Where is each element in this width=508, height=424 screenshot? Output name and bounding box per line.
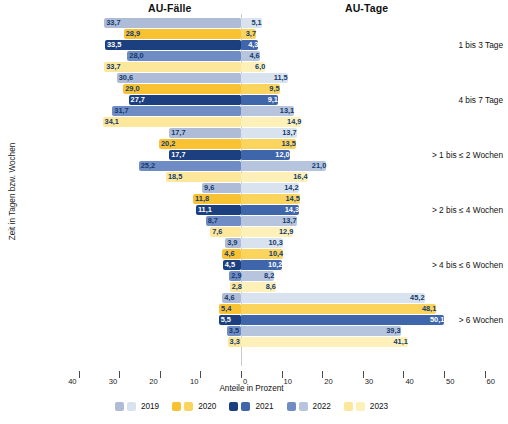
bar-group: 17,713,720,213,517,712,025,221,018,516,4	[0, 128, 503, 183]
bar-value-au-tage: 41,1	[241, 337, 410, 347]
bar-value-au-faelle: 17,7	[169, 150, 185, 160]
legend-swatch-au-tage	[299, 402, 308, 411]
axis-tick	[322, 371, 323, 378]
bar-value-au-faelle: 31,7	[112, 106, 128, 116]
bar-row: 27,79,1	[0, 95, 503, 105]
bar-row: 3,539,3	[0, 326, 503, 336]
bar-row: 18,516,4	[0, 172, 503, 182]
bar-value-au-faelle: 5,4	[219, 304, 231, 314]
bar-au-faelle	[103, 117, 241, 127]
bar-row: 3,910,3	[0, 238, 503, 248]
bar-row: 9,614,2	[0, 183, 503, 193]
bar-row: 5,550,1	[0, 315, 503, 325]
bar-value-au-faelle: 2,9	[229, 271, 241, 281]
bar-row: 28,93,7	[0, 29, 503, 39]
bar-au-faelle	[123, 84, 241, 94]
bar-group: 30,611,529,09,527,79,131,713,134,114,9	[0, 73, 503, 128]
column-header-au-tage: AU-Tage	[345, 2, 388, 14]
bar-row: 3,341,1	[0, 337, 503, 347]
legend-item-2021[interactable]: 2021	[229, 402, 273, 411]
axis-tick	[444, 371, 445, 378]
bar-value-au-faelle: 11,1	[196, 205, 212, 215]
bar-value-au-tage: 10,4	[241, 249, 285, 259]
bar-value-au-tage: 50,1	[241, 315, 446, 325]
plot-area: 33,75,128,93,733,54,328,04,633,76,030,61…	[0, 14, 503, 366]
bar-value-au-faelle: 33,5	[105, 40, 121, 50]
bar-row: 8,713,7	[0, 216, 503, 226]
bar-value-au-tage: 13,1	[241, 106, 296, 116]
legend: 20192020202120222023	[0, 402, 503, 411]
bar-row: 2,98,2	[0, 271, 503, 281]
bar-row: 4,645,2	[0, 293, 503, 303]
bar-row: 33,54,3	[0, 40, 503, 50]
bar-value-au-tage: 6,0	[241, 62, 267, 72]
bar-group: 33,75,128,93,733,54,328,04,633,76,0	[0, 18, 503, 73]
axis-tick	[200, 371, 201, 378]
bar-row: 29,09,5	[0, 84, 503, 94]
bar-value-au-tage: 10,2	[241, 260, 284, 270]
legend-item-2019[interactable]: 2019	[115, 402, 159, 411]
bar-row: 11,114,3	[0, 205, 503, 215]
bar-au-faelle	[104, 62, 241, 72]
bar-group: 3,910,34,610,44,510,22,98,22,88,6	[0, 238, 503, 293]
bar-value-au-faelle: 4,6	[222, 293, 234, 303]
bar-row: 20,213,5	[0, 139, 503, 149]
bar-row: 17,713,7	[0, 128, 503, 138]
bar-row: 31,713,1	[0, 106, 503, 116]
bar-value-au-faelle: 3,9	[225, 238, 237, 248]
legend-swatch-au-faelle	[344, 402, 353, 411]
bar-value-au-tage: 4,3	[241, 40, 260, 50]
bar-row: 34,114,9	[0, 117, 503, 127]
bar-value-au-faelle: 28,9	[124, 29, 140, 39]
bar-value-au-tage: 10,3	[241, 238, 285, 248]
bar-value-au-faelle: 4,6	[222, 249, 234, 259]
axis-tick	[363, 371, 364, 378]
legend-swatch-au-tage	[356, 402, 365, 411]
bar-group: 4,645,25,448,15,550,13,539,33,341,1	[0, 293, 503, 348]
bar-value-au-tage: 8,2	[241, 271, 276, 281]
bar-value-au-faelle: 28,0	[127, 51, 143, 61]
bar-row: 33,76,0	[0, 62, 503, 72]
axis-tick	[485, 371, 486, 378]
axis-tick	[241, 371, 242, 378]
bar-value-au-tage: 13,7	[241, 128, 299, 138]
legend-label: 2022	[313, 402, 331, 411]
legend-swatch-au-faelle	[172, 402, 181, 411]
bar-value-au-faelle: 11,8	[193, 194, 209, 204]
bar-row: 7,612,9	[0, 227, 503, 237]
bar-au-faelle	[104, 18, 241, 28]
bar-row: 4,610,4	[0, 249, 503, 259]
bar-value-au-tage: 4,6	[241, 51, 262, 61]
bar-value-au-faelle: 3,3	[228, 337, 240, 347]
bar-value-au-tage: 16,4	[241, 172, 310, 182]
legend-item-2020[interactable]: 2020	[172, 402, 216, 411]
bar-value-au-tage: 11,5	[241, 73, 290, 83]
bar-value-au-tage: 39,3	[241, 326, 403, 336]
legend-swatch-au-tage	[184, 402, 193, 411]
bar-row: 30,611,5	[0, 73, 503, 83]
bar-group: 9,614,211,814,511,114,38,713,77,612,9	[0, 183, 503, 238]
legend-swatch-au-faelle	[229, 402, 238, 411]
bar-value-au-faelle: 18,5	[166, 172, 182, 182]
bar-value-au-faelle: 25,2	[139, 161, 155, 171]
legend-label: 2020	[198, 402, 216, 411]
legend-swatch-au-tage	[241, 402, 250, 411]
bar-value-au-tage: 14,5	[241, 194, 302, 204]
bar-value-au-tage: 45,2	[241, 293, 427, 303]
bar-value-au-tage: 21,0	[241, 161, 328, 171]
bar-value-au-tage: 9,5	[241, 84, 282, 94]
legend-label: 2021	[255, 402, 273, 411]
legend-item-2022[interactable]: 2022	[287, 402, 331, 411]
bar-row: 17,712,0	[0, 150, 503, 160]
legend-item-2023[interactable]: 2023	[344, 402, 388, 411]
bar-value-au-tage: 12,9	[241, 227, 295, 237]
legend-swatch-au-faelle	[287, 402, 296, 411]
bar-row: 28,04,6	[0, 51, 503, 61]
bar-value-au-tage: 12,0	[241, 150, 292, 160]
axis-tick	[282, 371, 283, 378]
bar-value-au-tage: 14,2	[241, 183, 301, 193]
axis-tick	[403, 371, 404, 378]
bar-value-au-faelle: 9,6	[202, 183, 214, 193]
bar-value-au-faelle: 27,7	[129, 95, 145, 105]
